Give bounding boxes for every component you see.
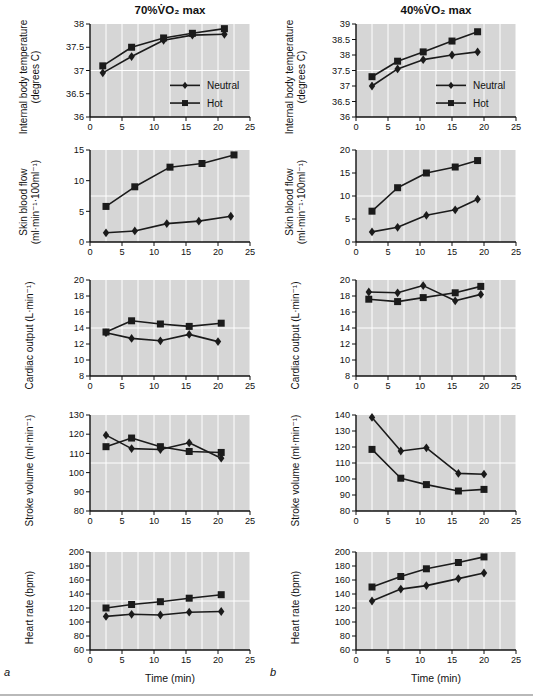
- x-tick-label: 0: [87, 247, 92, 257]
- y-axis-label: Internal body temperature(degrees C): [270, 19, 322, 137]
- x-tick-label: 5: [385, 247, 390, 257]
- x-tick-label: 0: [87, 516, 92, 526]
- panel-sv-40: Stroke volume (ml·min⁻¹)8090100110120130…: [266, 403, 533, 538]
- square-marker: [128, 601, 135, 608]
- y-tick-label: 120: [335, 603, 350, 613]
- square-marker: [455, 559, 462, 566]
- chart-area: 81012141618200510152025: [56, 275, 260, 396]
- square-marker: [199, 159, 206, 166]
- square-marker: [157, 598, 164, 605]
- square-marker: [218, 591, 225, 598]
- x-tick-label: 25: [511, 655, 521, 665]
- panel-co-70: Cardiac output (L·min⁻¹)8101214161820051…: [0, 268, 266, 403]
- chart-sbf-70: 0510150510152025: [56, 145, 260, 258]
- x-tick-label: 25: [511, 122, 521, 132]
- y-tick-label: 60: [74, 645, 84, 655]
- x-tick-label: 10: [415, 247, 425, 257]
- panel-temp-70: 70%V̇O₂ maxInternal body temperature(deg…: [0, 0, 266, 138]
- y-tick-label: 0: [79, 237, 84, 247]
- y-tick-label: 160: [69, 575, 84, 585]
- chart-area: 051015200510152025: [322, 145, 526, 262]
- x-tick-label: 15: [181, 122, 191, 132]
- y-tick-label: 5: [79, 206, 84, 216]
- chart-temp-70: 3636.53737.5380510152025NeutralHot: [56, 19, 260, 133]
- square-marker: [103, 604, 110, 611]
- square-marker: [365, 296, 372, 303]
- y-tick-label: 37: [74, 65, 84, 75]
- y-tick-label: 39: [340, 19, 350, 29]
- x-tick-label: 20: [479, 247, 489, 257]
- x-tick-label: 5: [385, 381, 390, 391]
- y-tick-label: 140: [335, 410, 350, 420]
- y-tick-label: 130: [335, 426, 350, 436]
- y-tick-label: 36.5: [66, 88, 84, 98]
- x-tick-label: 0: [87, 122, 92, 132]
- y-tick-label: 14: [74, 323, 84, 333]
- y-axis-label: Internal body temperature(degrees C): [4, 19, 56, 137]
- y-tick-label: 37.5: [66, 42, 84, 52]
- square-marker: [157, 321, 164, 328]
- x-tick-label: 20: [213, 247, 223, 257]
- x-tick-label: 20: [479, 122, 489, 132]
- x-tick-label: 0: [87, 655, 92, 665]
- x-tick-label: 25: [511, 516, 521, 526]
- x-tick-label: 25: [245, 381, 255, 391]
- x-tick-label: 5: [385, 122, 390, 132]
- square-marker: [394, 57, 401, 64]
- y-tick-label: 10: [74, 175, 84, 185]
- x-tick-label: 0: [353, 247, 358, 257]
- y-tick-label: 38: [340, 50, 350, 60]
- y-axis-label: Stroke volume (ml·min⁻¹): [4, 410, 56, 531]
- x-tick-label: 10: [149, 655, 159, 665]
- chart-area: 60801001201401601802000510152025: [56, 547, 260, 670]
- x-axis-label: Time (min): [356, 670, 516, 686]
- square-marker: [131, 183, 138, 190]
- square-marker: [452, 163, 459, 170]
- square-marker: [189, 29, 196, 36]
- y-tick-label: 10: [74, 355, 84, 365]
- square-marker: [369, 446, 376, 453]
- legend-label: Neutral: [473, 79, 505, 90]
- square-marker: [455, 488, 462, 495]
- chart-sv-40: 80901001101201301400510152025: [322, 410, 526, 527]
- y-tick-label: 10: [340, 191, 350, 201]
- panel-co-40: Cardiac output (L·min⁻¹)8101214161820051…: [266, 268, 533, 403]
- y-tick-label: 80: [340, 506, 350, 516]
- y-tick-label: 16: [74, 307, 84, 317]
- x-tick-label: 25: [245, 122, 255, 132]
- square-marker: [481, 486, 488, 493]
- x-tick-label: 25: [245, 247, 255, 257]
- y-tick-label: 38.5: [332, 34, 350, 44]
- chart-area: 3636.53737.53838.5390510152025NeutralHot: [322, 19, 526, 137]
- chart-area: 80901001101201300510152025: [56, 410, 260, 531]
- x-tick-label: 25: [511, 247, 521, 257]
- y-axis-label: Heart rate (bpm): [270, 547, 322, 670]
- x-tick-label: 10: [415, 516, 425, 526]
- square-marker: [394, 184, 401, 191]
- square-marker: [449, 37, 456, 44]
- square-marker: [221, 25, 228, 32]
- y-tick-label: 37.5: [332, 65, 350, 75]
- x-tick-label: 10: [415, 122, 425, 132]
- square-marker: [99, 62, 106, 69]
- x-tick-label: 15: [447, 655, 457, 665]
- panel-hr-70: Heart rate (bpm)608010012014016018020005…: [0, 538, 266, 694]
- x-tick-label: 20: [213, 655, 223, 665]
- x-tick-label: 0: [353, 122, 358, 132]
- y-tick-label: 12: [340, 339, 350, 349]
- square-marker: [128, 317, 135, 324]
- chart-co-70: 81012141618200510152025: [56, 275, 260, 392]
- square-marker: [186, 594, 193, 601]
- x-tick-label: 10: [149, 122, 159, 132]
- y-tick-label: 5: [345, 214, 350, 224]
- square-marker: [397, 573, 404, 580]
- y-axis-label: Skin blood flow(ml·min⁻¹·100ml⁻¹): [4, 145, 56, 262]
- panel-letter-b: b: [270, 666, 276, 678]
- square-marker: [369, 73, 376, 80]
- x-tick-label: 15: [181, 655, 191, 665]
- y-tick-label: 160: [335, 575, 350, 585]
- x-tick-label: 20: [213, 122, 223, 132]
- y-tick-label: 100: [69, 617, 84, 627]
- square-marker: [481, 553, 488, 560]
- chart-title: 70%V̇O₂ max: [90, 2, 250, 19]
